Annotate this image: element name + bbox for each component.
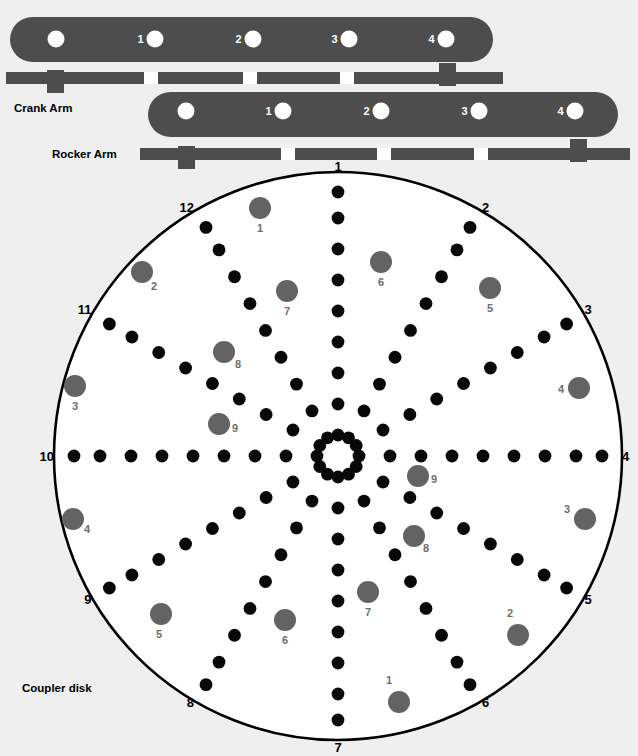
disk-hole-dot[interactable]	[280, 450, 293, 463]
disk-hole-dot[interactable]	[484, 538, 497, 551]
disk-hole-dot[interactable]	[332, 243, 345, 256]
disk-marker-9[interactable]	[208, 413, 230, 435]
disk-marker-8[interactable]	[213, 341, 235, 363]
disk-hole-dot[interactable]	[306, 495, 319, 508]
disk-hole-dot[interactable]	[332, 274, 345, 287]
disk-hole-dot[interactable]	[511, 553, 524, 566]
disk-hole-dot[interactable]	[233, 507, 246, 520]
disk-hole-dot[interactable]	[259, 575, 272, 588]
rocker-arm-hole-4[interactable]	[567, 103, 584, 120]
disk-marker-7[interactable]	[357, 581, 379, 603]
disk-hole-dot[interactable]	[200, 678, 213, 691]
disk-hole-dot[interactable]	[415, 450, 428, 463]
disk-marker-5[interactable]	[479, 277, 501, 299]
disk-hole-dot[interactable]	[94, 450, 107, 463]
disk-marker-2[interactable]	[131, 261, 153, 283]
crank-arm-hole-3[interactable]	[341, 31, 358, 48]
disk-hole-dot[interactable]	[332, 398, 345, 411]
disk-hole-dot[interactable]	[435, 270, 448, 283]
disk-hole-dot[interactable]	[389, 548, 402, 561]
disk-marker-8[interactable]	[403, 525, 425, 547]
disk-hole-dot[interactable]	[508, 450, 521, 463]
disk-hole-dot[interactable]	[125, 569, 138, 582]
disk-hole-dot[interactable]	[68, 450, 81, 463]
disk-hole-dot[interactable]	[228, 270, 241, 283]
disk-hole-dot[interactable]	[249, 450, 262, 463]
disk-marker-4[interactable]	[568, 377, 590, 399]
disk-hole-dot[interactable]	[156, 450, 169, 463]
crank-arm-hole-2[interactable]	[245, 31, 262, 48]
disk-hole-dot[interactable]	[244, 602, 257, 615]
disk-hole-dot[interactable]	[484, 362, 497, 375]
disk-hole-dot[interactable]	[403, 408, 416, 421]
disk-hole-dot[interactable]	[290, 378, 303, 391]
disk-hole-dot[interactable]	[260, 408, 273, 421]
disk-hole-dot[interactable]	[384, 450, 397, 463]
disk-hole-dot[interactable]	[451, 656, 464, 669]
disk-hole-dot[interactable]	[200, 221, 213, 234]
disk-marker-3[interactable]	[574, 508, 596, 530]
disk-hole-dot[interactable]	[596, 450, 609, 463]
disk-hole-dot[interactable]	[332, 305, 345, 318]
disk-hole-dot[interactable]	[152, 553, 165, 566]
disk-marker-6[interactable]	[370, 251, 392, 273]
disk-hole-dot[interactable]	[125, 331, 138, 344]
disk-hole-dot[interactable]	[477, 450, 490, 463]
rocker-arm-hole-1[interactable]	[275, 103, 292, 120]
disk-hole-dot[interactable]	[332, 626, 345, 639]
disk-hole-dot[interactable]	[358, 495, 371, 508]
disk-hole-dot[interactable]	[435, 629, 448, 642]
disk-hole-dot[interactable]	[244, 297, 257, 310]
disk-hole-dot[interactable]	[306, 405, 319, 418]
disk-marker-2[interactable]	[507, 624, 529, 646]
rocker-arm-pivot-hole[interactable]	[178, 103, 195, 120]
disk-marker-1[interactable]	[249, 197, 271, 219]
disk-hole-dot[interactable]	[287, 476, 300, 489]
disk-hole-dot[interactable]	[451, 243, 464, 256]
disk-hole-dot[interactable]	[464, 221, 477, 234]
disk-hole-dot[interactable]	[332, 595, 345, 608]
disk-hole-dot[interactable]	[218, 450, 231, 463]
disk-hole-dot[interactable]	[103, 582, 116, 595]
disk-marker-9[interactable]	[407, 465, 429, 487]
disk-hole-dot[interactable]	[152, 346, 165, 359]
disk-hole-dot[interactable]	[457, 377, 470, 390]
disk-hole-dot[interactable]	[403, 491, 416, 504]
disk-hole-dot[interactable]	[404, 324, 417, 337]
disk-hole-dot[interactable]	[377, 424, 390, 437]
disk-marker-1[interactable]	[388, 691, 410, 713]
disk-hole-dot[interactable]	[332, 533, 345, 546]
disk-hole-dot[interactable]	[228, 629, 241, 642]
disk-hole-dot[interactable]	[389, 351, 402, 364]
disk-hole-dot[interactable]	[259, 324, 272, 337]
disk-hole-dot[interactable]	[420, 602, 433, 615]
disk-hole-dot[interactable]	[420, 297, 433, 310]
disk-hole-dot[interactable]	[511, 346, 524, 359]
disk-hole-dot[interactable]	[213, 243, 226, 256]
disk-marker-4[interactable]	[62, 508, 84, 530]
rocker-arm-hole-3[interactable]	[471, 103, 488, 120]
disk-marker-5[interactable]	[150, 603, 172, 625]
disk-hole-dot[interactable]	[373, 378, 386, 391]
disk-hole-dot[interactable]	[464, 678, 477, 691]
crank-arm-hole-4[interactable]	[438, 31, 455, 48]
disk-hole-dot[interactable]	[213, 656, 226, 669]
disk-hole-dot[interactable]	[287, 424, 300, 437]
disk-hole-dot[interactable]	[560, 318, 573, 331]
disk-hole-dot[interactable]	[358, 405, 371, 418]
disk-hole-dot[interactable]	[179, 362, 192, 375]
disk-hole-dot[interactable]	[560, 582, 573, 595]
disk-hole-dot[interactable]	[275, 351, 288, 364]
disk-hole-dot[interactable]	[260, 491, 273, 504]
crank-arm-pivot-hole[interactable]	[48, 31, 65, 48]
disk-hole-dot[interactable]	[539, 450, 552, 463]
disk-hole-dot[interactable]	[430, 393, 443, 406]
disk-hole-dot[interactable]	[538, 331, 551, 344]
crank-arm-hole-1[interactable]	[147, 31, 164, 48]
disk-hole-dot[interactable]	[332, 212, 345, 225]
disk-hole-dot[interactable]	[332, 714, 345, 727]
disk-marker-3[interactable]	[64, 375, 86, 397]
disk-hole-dot[interactable]	[290, 521, 303, 534]
disk-hole-dot[interactable]	[103, 318, 116, 331]
disk-hole-dot[interactable]	[446, 450, 459, 463]
